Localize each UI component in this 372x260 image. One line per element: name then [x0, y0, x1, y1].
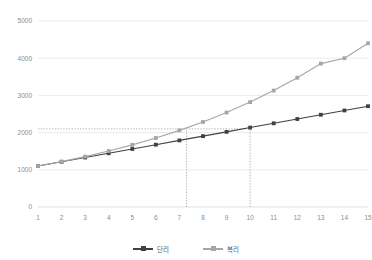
svg-text:3000: 3000	[18, 92, 33, 99]
legend-label-series-0: 단리	[157, 244, 169, 254]
chart-legend: 단리 복리	[0, 244, 372, 254]
legend-item-series-1[interactable]: 복리	[203, 244, 239, 254]
svg-text:1000: 1000	[18, 166, 33, 173]
legend-label-series-1: 복리	[227, 244, 239, 254]
svg-text:15: 15	[364, 214, 372, 221]
svg-text:13: 13	[317, 214, 325, 221]
svg-text:3: 3	[83, 214, 87, 221]
svg-text:10: 10	[247, 214, 255, 221]
svg-text:4: 4	[107, 214, 111, 221]
gridlines-group	[38, 21, 368, 207]
legend-marker-series-0	[133, 245, 153, 253]
x-axis-tick-labels: 123456789101112131415	[36, 214, 372, 221]
svg-text:2: 2	[60, 214, 64, 221]
svg-text:8: 8	[201, 214, 205, 221]
series-group	[36, 41, 370, 168]
chart-container: 010002000300040005000 123456789101112131…	[0, 0, 372, 260]
svg-text:11: 11	[270, 214, 277, 221]
svg-text:12: 12	[294, 214, 302, 221]
svg-text:1: 1	[36, 214, 40, 221]
svg-text:0: 0	[28, 203, 32, 210]
reference-lines-group	[38, 128, 250, 207]
svg-text:7: 7	[178, 214, 182, 221]
line-chart-plot: 010002000300040005000 123456789101112131…	[0, 0, 372, 260]
svg-text:2000: 2000	[18, 129, 33, 136]
legend-marker-series-1	[203, 245, 223, 253]
svg-text:4000: 4000	[18, 55, 33, 62]
svg-text:5000: 5000	[18, 17, 33, 24]
svg-text:14: 14	[341, 214, 349, 221]
svg-text:5: 5	[130, 214, 134, 221]
svg-text:9: 9	[225, 214, 229, 221]
y-axis-tick-labels: 010002000300040005000	[18, 17, 33, 210]
legend-item-series-0[interactable]: 단리	[133, 244, 169, 254]
svg-text:6: 6	[154, 214, 158, 221]
